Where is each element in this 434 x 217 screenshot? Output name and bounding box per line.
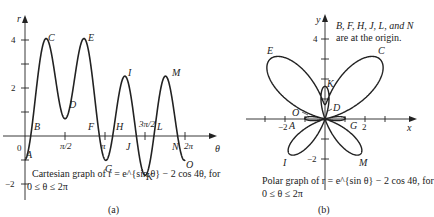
caption-b-line1: Polar graph of r = e^{sin θ} − 2 cos 4θ,… bbox=[262, 175, 434, 187]
y-tick-neg2-polar: −2 bbox=[307, 155, 317, 164]
origin-note-line2: are at the origin. bbox=[336, 32, 402, 44]
polar-label-o: O bbox=[292, 108, 299, 118]
point-label-d: D bbox=[69, 100, 76, 110]
point-label-a: A bbox=[26, 150, 32, 160]
polar-label-d: D bbox=[333, 103, 340, 113]
origin-label: 0 bbox=[17, 144, 22, 153]
point-label-m: M bbox=[172, 68, 180, 78]
d-leader-line bbox=[328, 109, 332, 111]
x-tick-pi-over-2: π/2 bbox=[60, 142, 72, 151]
point-label-i: I bbox=[128, 68, 131, 78]
x-tick-3pi-over-2: 3π/2 bbox=[139, 120, 155, 129]
sublabel-a: (a) bbox=[108, 204, 119, 215]
y-axis-arrow-icon bbox=[322, 14, 328, 22]
point-label-e: E bbox=[88, 33, 94, 43]
y-tick-4: 4 bbox=[11, 36, 16, 45]
y-tick-2: 2 bbox=[11, 84, 16, 93]
y-tick-4-polar: 4 bbox=[313, 35, 318, 44]
point-label-h: H bbox=[116, 122, 123, 132]
point-label-f: F bbox=[88, 122, 94, 132]
x-axis-label: x bbox=[407, 123, 411, 133]
point-label-n: N bbox=[172, 142, 179, 152]
polar-label-g: G bbox=[350, 121, 357, 131]
x-tick-2pi: 2π bbox=[184, 142, 193, 151]
polar-label-i: I bbox=[283, 158, 286, 168]
y-axis-label: y bbox=[316, 15, 320, 25]
y-tick-neg2: −2 bbox=[5, 180, 15, 189]
polar-label-m: M bbox=[359, 158, 367, 168]
origin-note-line1: B, F, H, J, L, and N bbox=[336, 20, 413, 32]
point-label-l: L bbox=[157, 122, 163, 132]
polar-label-e: E bbox=[267, 46, 273, 56]
x-tick-2: 2 bbox=[362, 123, 367, 132]
polar-label-k: K bbox=[327, 79, 334, 89]
point-label-c: C bbox=[48, 33, 55, 43]
r-axis-arrow-icon bbox=[22, 15, 28, 23]
caption-b-line2: 0 ≤ θ ≤ 2π bbox=[262, 188, 303, 200]
sublabel-b: (b) bbox=[318, 204, 330, 215]
caption-a-line2: 0 ≤ θ ≤ 2π bbox=[27, 181, 68, 193]
point-label-j: J bbox=[126, 142, 130, 152]
polar-label-c: C bbox=[378, 46, 385, 56]
point-label-b: B bbox=[34, 122, 40, 132]
polar-label-a: A bbox=[289, 121, 295, 131]
theta-axis-label: θ bbox=[215, 144, 220, 154]
x-tick-pi: π bbox=[101, 142, 106, 151]
x-tick-neg2: −2 bbox=[278, 123, 288, 132]
r-axis-label: r bbox=[17, 14, 21, 24]
cartesian-curve bbox=[25, 39, 185, 176]
theta-axis-arrow-icon bbox=[209, 133, 217, 139]
caption-a-line1: Cartesian graph of r = e^{sin θ} − 2 cos… bbox=[32, 168, 220, 180]
